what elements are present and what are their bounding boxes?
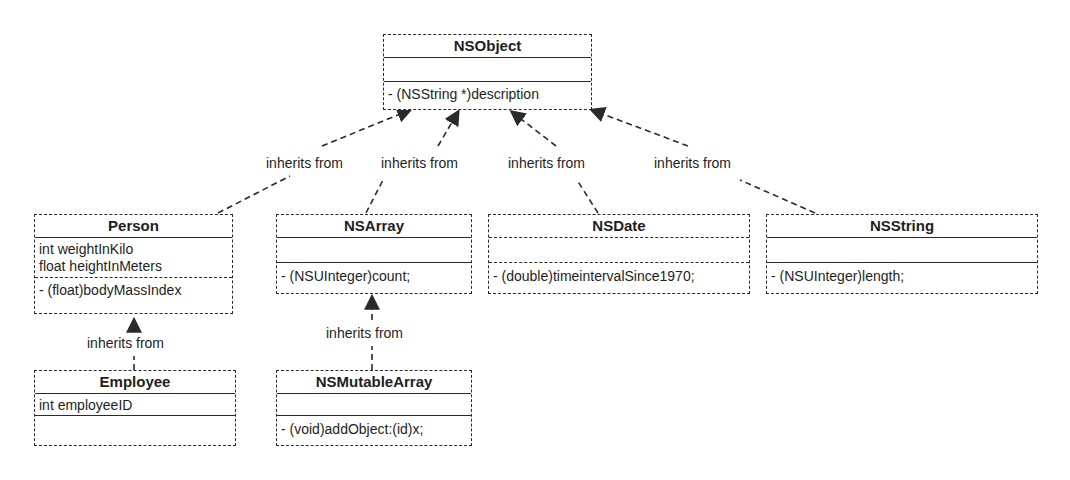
class-nsobject: NSObject - (NSString *)description	[383, 34, 592, 110]
attributes-section	[277, 394, 471, 416]
attribute: float heightInMeters	[39, 258, 228, 275]
edge-label-nsarray: inherits from	[381, 155, 458, 171]
class-person: Person int weightInKilo float heightInMe…	[34, 214, 233, 314]
edge-label-nsstring: inherits from	[654, 155, 731, 171]
class-nsdate: NSDate - (double)timeintervalSince1970;	[488, 214, 750, 294]
attributes-section: int weightInKilo float heightInMeters	[35, 238, 232, 278]
edge-nsdate-lower	[577, 180, 598, 213]
class-name: NSString	[767, 215, 1037, 238]
attribute: int weightInKilo	[39, 241, 228, 258]
edge-label-person: inherits from	[266, 155, 343, 171]
class-name: Employee	[35, 371, 235, 394]
edge-label-nsmutablearray: inherits from	[326, 325, 403, 341]
edge-nsarray-lower	[366, 180, 383, 213]
class-name: NSArray	[277, 215, 471, 238]
edge-person-upper	[322, 110, 410, 146]
edge-label-nsdate: inherits from	[508, 155, 585, 171]
attributes-section	[384, 58, 591, 82]
attributes-section	[767, 238, 1037, 263]
class-name: NSDate	[489, 215, 749, 238]
method: - (double)timeintervalSince1970;	[489, 263, 749, 289]
class-nsmutablearray: NSMutableArray - (void)addObject:(id)x;	[276, 370, 472, 446]
attributes-section	[489, 238, 749, 263]
method: - (NSUInteger)count;	[277, 263, 471, 289]
method: - (NSString *)description	[384, 82, 591, 106]
edge-nsdate-upper	[512, 112, 556, 146]
attributes-section: int employeeID	[35, 394, 235, 416]
class-name: NSMutableArray	[277, 371, 471, 394]
edge-nsstring-lower	[740, 180, 815, 213]
class-employee: Employee int employeeID	[34, 370, 236, 446]
class-name: NSObject	[384, 35, 591, 58]
method: - (NSUInteger)length;	[767, 263, 1037, 289]
edge-label-employee: inherits from	[87, 335, 164, 351]
attribute: int employeeID	[39, 394, 231, 416]
method: - (float)bodyMassIndex	[35, 278, 232, 302]
edge-nsstring-upper	[592, 110, 688, 146]
class-name: Person	[35, 215, 232, 238]
class-nsstring: NSString - (NSUInteger)length;	[766, 214, 1038, 294]
class-nsarray: NSArray - (NSUInteger)count;	[276, 214, 472, 294]
edge-person-lower	[218, 176, 290, 213]
attributes-section	[277, 238, 471, 263]
edge-nsarray-upper	[438, 112, 458, 146]
method: - (void)addObject:(id)x;	[277, 416, 471, 442]
